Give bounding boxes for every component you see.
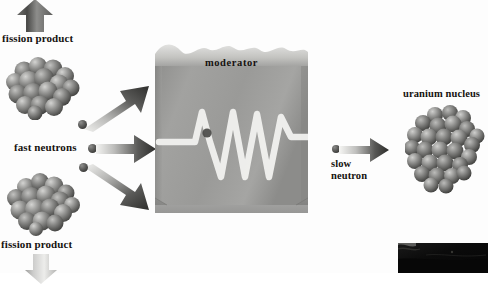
arrow-down-icon bbox=[24, 254, 58, 284]
label-slow-neutron-line2: neutron bbox=[331, 170, 367, 182]
nucleus-cluster-icon-uranium bbox=[405, 105, 487, 195]
label-moderator: moderator bbox=[155, 57, 308, 68]
arrow-up-icon bbox=[16, 0, 54, 32]
label-fission-product-top: fission product bbox=[2, 32, 73, 44]
label-fast-neutrons: fast neutrons bbox=[14, 141, 77, 153]
label-slow-neutron-line1: slow bbox=[331, 158, 367, 170]
label-slow-neutron: slow neutron bbox=[331, 158, 367, 182]
arrow-right-icon-fast-neutron bbox=[96, 133, 156, 165]
neutron-dot-icon-top bbox=[78, 120, 87, 129]
arrow-diagonal-up-right-icon bbox=[78, 82, 154, 134]
label-uranium-nucleus: uranium nucleus bbox=[403, 88, 480, 100]
arrow-diagonal-down-right-icon bbox=[78, 162, 154, 214]
nucleus-cluster-icon-fission-product-bottom bbox=[6, 172, 84, 236]
next-image-fragment bbox=[398, 243, 488, 273]
neutron-dot-icon-bottom bbox=[79, 163, 88, 172]
label-fission-product-bottom: fission product bbox=[1, 238, 72, 250]
nucleus-cluster-icon-fission-product-top bbox=[4, 55, 84, 120]
